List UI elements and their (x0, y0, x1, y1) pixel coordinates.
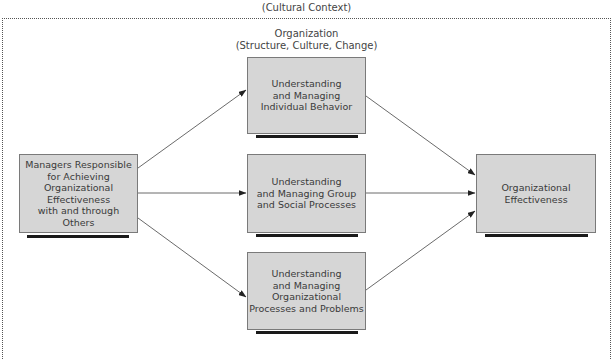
effectiveness-box-shadow (485, 234, 588, 237)
box-text-line: Managers Responsible (25, 159, 132, 171)
organizational-processes-box: Understanding and Managing Organizationa… (247, 252, 366, 330)
box-text-line: Effectiveness (501, 194, 570, 206)
box-text-line: Individual Behavior (261, 101, 352, 113)
box-text-line: Organizational (249, 291, 364, 303)
box-text-line: and Social Processes (257, 199, 356, 211)
box-text-line: Processes and Problems (249, 303, 364, 315)
processes-box-shadow (256, 331, 358, 334)
arrow-managers-to-processes (138, 218, 246, 297)
box-text-line: and Managing Group (257, 188, 356, 200)
individual-box-shadow (256, 135, 358, 138)
arrow-individual-to-effectiveness (366, 96, 475, 175)
box-text-line: Organizational (25, 182, 132, 194)
box-text-line: Effectiveness (25, 194, 132, 206)
arrow-managers-to-individual (138, 90, 246, 168)
box-text-line: Understanding (261, 78, 352, 90)
box-text-line: Organizational (501, 182, 570, 194)
organizational-effectiveness-box: Organizational Effectiveness (476, 154, 596, 233)
box-text-line: and Managing (249, 280, 364, 292)
managers-box-shadow (27, 235, 129, 238)
box-text-line: Understanding (249, 268, 364, 280)
group-box-shadow (256, 234, 358, 237)
individual-behavior-box: Understanding and Managing Individual Be… (247, 57, 366, 134)
box-text-line: with and through (25, 205, 132, 217)
box-text-line: for Achieving (25, 171, 132, 183)
box-text-line: Others (25, 217, 132, 229)
box-text-line: Understanding (257, 176, 356, 188)
group-processes-box: Understanding and Managing Group and Soc… (247, 154, 366, 233)
arrow-processes-to-effectiveness (366, 211, 475, 290)
managers-box: Managers Responsible for Achieving Organ… (19, 154, 138, 233)
box-text-line: and Managing (261, 90, 352, 102)
